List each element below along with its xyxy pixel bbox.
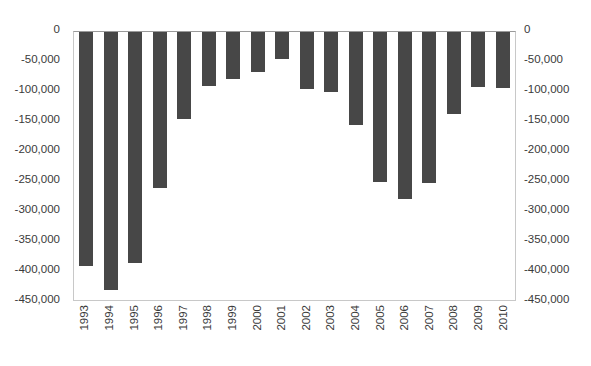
x-tick-label: 1993 — [80, 305, 92, 331]
y-tick-label-right: -350,000 — [524, 234, 569, 246]
bar[interactable] — [300, 32, 314, 89]
y-tick-label-right: -50,000 — [524, 54, 563, 66]
bar[interactable] — [373, 32, 387, 182]
y-tick-label-right: -450,000 — [524, 294, 569, 306]
y-tick-label-right: 0 — [524, 24, 530, 36]
bar-slot — [270, 32, 295, 300]
y-tick-label-right: -400,000 — [524, 264, 569, 276]
bar[interactable] — [128, 32, 142, 263]
x-tick-slot: 1999 — [221, 303, 246, 365]
bar-slot — [417, 32, 442, 300]
bar-slot — [368, 32, 393, 300]
bar[interactable] — [349, 32, 363, 125]
y-tick-label-left: -250,000 — [15, 174, 60, 186]
y-tick-label-right: -300,000 — [524, 204, 569, 216]
x-tick-label: 2009 — [473, 305, 485, 331]
bar[interactable] — [177, 32, 191, 119]
x-tick-label: 1996 — [153, 305, 165, 331]
x-tick-label: 2010 — [498, 305, 510, 331]
x-tick-slot: 1996 — [147, 303, 172, 365]
bar[interactable] — [471, 32, 485, 87]
y-tick-label-right: -250,000 — [524, 174, 569, 186]
x-axis: 1993199419951996199719981999200020012002… — [73, 303, 516, 365]
x-tick-label: 2002 — [301, 305, 313, 331]
y-axis-right: 0-50,000-100,000-150,000-200,000-250,000… — [516, 0, 584, 366]
bar[interactable] — [79, 32, 93, 266]
bar-slot — [344, 32, 369, 300]
bars-layer — [74, 32, 515, 300]
x-tick-slot: 2000 — [245, 303, 270, 365]
x-tick-slot: 2002 — [294, 303, 319, 365]
x-tick-slot: 2006 — [393, 303, 418, 365]
bar[interactable] — [496, 32, 510, 88]
x-tick-label: 2007 — [424, 305, 436, 331]
bar-slot — [466, 32, 491, 300]
y-tick-label-left: -50,000 — [21, 54, 60, 66]
x-tick-label: 2003 — [326, 305, 338, 331]
bar-slot — [123, 32, 148, 300]
bar-slot — [148, 32, 173, 300]
bar[interactable] — [153, 32, 167, 188]
x-tick-slot: 2005 — [368, 303, 393, 365]
bar-slot — [172, 32, 197, 300]
bar-slot — [197, 32, 222, 300]
x-tick-slot: 2009 — [467, 303, 492, 365]
x-tick-label: 1998 — [203, 305, 215, 331]
x-tick-slot: 1995 — [122, 303, 147, 365]
bar-slot — [319, 32, 344, 300]
bar-slot — [246, 32, 271, 300]
y-tick-label-left: -200,000 — [15, 144, 60, 156]
bar[interactable] — [251, 32, 265, 72]
bar-slot — [295, 32, 320, 300]
x-tick-slot: 2010 — [491, 303, 516, 365]
y-tick-label-left: -300,000 — [15, 204, 60, 216]
bar[interactable] — [104, 32, 118, 290]
bar-slot — [74, 32, 99, 300]
x-tick-label: 2001 — [276, 305, 288, 331]
bar-slot — [442, 32, 467, 300]
bar[interactable] — [398, 32, 412, 199]
y-tick-label-right: -150,000 — [524, 114, 569, 126]
x-tick-label: 2006 — [399, 305, 411, 331]
x-tick-slot: 2007 — [418, 303, 443, 365]
x-tick-label: 2008 — [449, 305, 461, 331]
x-tick-slot: 2004 — [344, 303, 369, 365]
bar[interactable] — [202, 32, 216, 86]
x-tick-label: 2004 — [350, 305, 362, 331]
bar-slot — [221, 32, 246, 300]
bar[interactable] — [226, 32, 240, 79]
x-tick-label: 1995 — [129, 305, 141, 331]
bar-chart: 0-50,000-100,000-150,000-200,000-250,000… — [0, 0, 591, 366]
plot-area — [73, 31, 516, 301]
y-tick-label-left: -100,000 — [15, 84, 60, 96]
x-tick-slot: 2001 — [270, 303, 295, 365]
x-tick-slot: 1997 — [171, 303, 196, 365]
y-tick-label-left: -450,000 — [15, 294, 60, 306]
x-tick-label: 2005 — [375, 305, 387, 331]
x-tick-slot: 2003 — [319, 303, 344, 365]
y-tick-label-left: -350,000 — [15, 234, 60, 246]
y-tick-label-left: -150,000 — [15, 114, 60, 126]
x-tick-label: 1999 — [227, 305, 239, 331]
x-tick-label: 1997 — [178, 305, 190, 331]
x-tick-slot: 1994 — [98, 303, 123, 365]
y-axis-left: 0-50,000-100,000-150,000-200,000-250,000… — [0, 0, 68, 366]
x-tick-slot: 1993 — [73, 303, 98, 365]
y-tick-label-right: -100,000 — [524, 84, 569, 96]
x-tick-label: 1994 — [104, 305, 116, 331]
y-tick-label-left: 0 — [54, 24, 60, 36]
y-tick-label-right: -200,000 — [524, 144, 569, 156]
bar[interactable] — [275, 32, 289, 59]
bar[interactable] — [422, 32, 436, 183]
bar[interactable] — [324, 32, 338, 92]
bar[interactable] — [447, 32, 461, 114]
x-tick-slot: 2008 — [442, 303, 467, 365]
x-tick-slot: 1998 — [196, 303, 221, 365]
bar-slot — [491, 32, 516, 300]
y-tick-label-left: -400,000 — [15, 264, 60, 276]
x-tick-label: 2000 — [252, 305, 264, 331]
bar-slot — [99, 32, 124, 300]
bar-slot — [393, 32, 418, 300]
